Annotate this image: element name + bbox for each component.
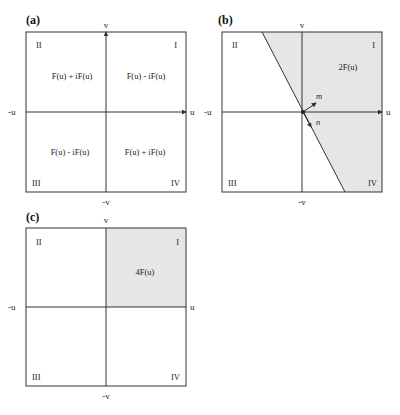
u-neg-label: -u: [8, 107, 16, 117]
u-pos-label: u: [386, 107, 391, 117]
panel-a: (a) v -v u -u II I III IV F(u) + iF(u) F…: [8, 13, 195, 207]
panel-b: (b) m n v -v u -u II I III IV 2F(u): [204, 13, 391, 207]
figure-canvas: (a) v -v u -u II I III IV F(u) + iF(u) F…: [0, 0, 400, 415]
v-pos-label: v: [300, 20, 305, 30]
u-neg-label: -u: [204, 107, 212, 117]
quadrant-II-label: II: [36, 40, 42, 50]
vector-m-label: m: [316, 91, 322, 101]
u-pos-label: u: [190, 302, 195, 312]
quadrant-III-label: III: [32, 372, 41, 382]
u-pos-label: u: [190, 107, 195, 117]
panel-c-label: (c): [26, 210, 39, 224]
quadrant-I-label: I: [176, 237, 179, 247]
shaded-region-label: 2F(u): [339, 62, 358, 72]
vector-n-label: n: [316, 117, 320, 127]
expr-q2: F(u) + iF(u): [52, 71, 93, 81]
expr-q3: F(u) - iF(u): [51, 147, 90, 157]
quadrant-I-label: I: [174, 40, 177, 50]
quadrant-IV-label: IV: [171, 372, 181, 382]
u-neg-label: -u: [8, 302, 16, 312]
v-pos-label: v: [104, 215, 109, 225]
expr-q1: F(u) - iF(u): [127, 71, 166, 81]
quadrant-III-label: III: [32, 178, 41, 188]
panel-c: (c) v -v u -u II I III IV 4F(u): [8, 210, 195, 401]
quadrant-IV-label: IV: [368, 178, 378, 188]
quadrant-III-label: III: [228, 178, 237, 188]
expr-q4: F(u) + iF(u): [125, 147, 166, 157]
quadrant-II-label: II: [232, 40, 238, 50]
v-neg-label: -v: [102, 197, 110, 207]
v-neg-label: -v: [102, 391, 110, 401]
v-pos-label: v: [104, 20, 109, 30]
quadrant-I-label: I: [372, 40, 375, 50]
quadrant-IV-label: IV: [171, 178, 181, 188]
quadrant-II-label: II: [36, 237, 42, 247]
panel-a-label: (a): [26, 13, 40, 27]
shaded-region-label: 4F(u): [136, 267, 155, 277]
panel-b-label: (b): [218, 13, 233, 27]
v-neg-label: -v: [298, 197, 306, 207]
